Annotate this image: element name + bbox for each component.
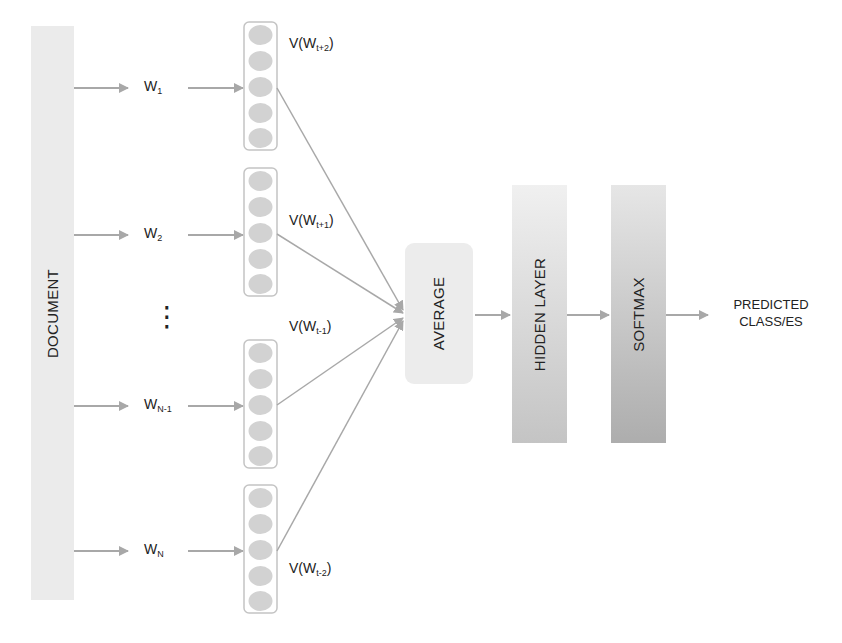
vector-label-t-minus-1: V(Wt-1) (289, 318, 331, 336)
vector-label-t-plus-1: V(Wt+1) (289, 212, 334, 230)
document-label: DOCUMENT (44, 268, 61, 357)
embedding-vector-3 (244, 340, 277, 468)
word-to-vector-arrows (188, 88, 243, 551)
word-label-2: W2 (144, 225, 162, 243)
embedding-vector-1 (244, 22, 277, 150)
hidden-layer-label-wrap: HIDDEN LAYER (512, 185, 567, 443)
vector-label-t-minus-2: V(Wt-2) (289, 560, 331, 578)
softmax-label-wrap: SOFTMAX (611, 185, 666, 443)
word-label-n-minus-1: WN-1 (144, 396, 172, 414)
hidden-layer-label: HIDDEN LAYER (531, 257, 548, 370)
average-label: AVERAGE (431, 277, 448, 351)
ellipsis: ⋮ (153, 303, 163, 331)
average-label-wrap: AVERAGE (405, 243, 473, 384)
word-label-n: WN (144, 541, 164, 559)
embedding-vector-4 (244, 485, 277, 613)
softmax-label: SOFTMAX (630, 277, 647, 352)
embedding-vector-2 (244, 168, 277, 296)
predicted-classes-label: PREDICTED CLASS/ES (722, 296, 820, 330)
document-label-wrap: DOCUMENT (31, 26, 74, 600)
word-label-1: W1 (144, 78, 162, 96)
vector-label-t-plus-2: V(Wt+2) (289, 35, 334, 53)
doc-to-word-arrows (74, 88, 128, 551)
